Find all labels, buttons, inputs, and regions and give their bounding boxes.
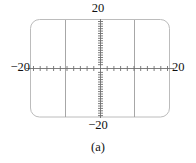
figure-panel: 20 −20 −20 20 (a) bbox=[0, 0, 196, 163]
x-axis-max-label: 20 bbox=[172, 61, 196, 74]
calculator-viewport-plot bbox=[0, 0, 196, 163]
figure-caption: (a) bbox=[0, 140, 196, 155]
y-axis-min-label: −20 bbox=[0, 119, 196, 132]
x-axis-min-label: −20 bbox=[2, 61, 30, 74]
y-axis-max-label: 20 bbox=[0, 2, 196, 15]
